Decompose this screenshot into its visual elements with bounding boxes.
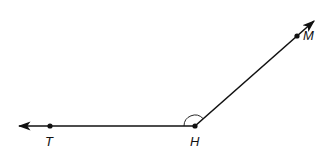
point-t [47, 123, 52, 128]
label-t: T [45, 134, 54, 149]
label-h: H [190, 134, 200, 149]
label-m: M [303, 28, 314, 43]
point-m [294, 33, 299, 38]
point-h [192, 123, 197, 128]
angle-diagram: T H M [0, 0, 329, 165]
